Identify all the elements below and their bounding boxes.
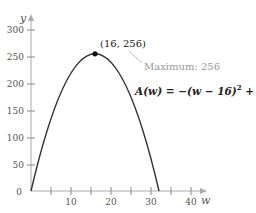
equation-constant: + 256 — [242, 85, 256, 97]
x-axis: 10 20 30 40 w — [31, 187, 211, 207]
y-tick-label: 200 — [7, 79, 24, 89]
y-axis: y 50 100 150 200 250 300 0 — [7, 12, 35, 197]
x-tick-label: 40 — [185, 197, 197, 207]
y-tick-label: 100 — [7, 133, 24, 143]
maximum-label: Maximum: 256 — [144, 61, 220, 72]
x-tick-label: 20 — [105, 197, 117, 207]
x-axis-label: w — [201, 194, 211, 207]
vertex-label: (16, 256) — [100, 38, 146, 49]
origin-label: 0 — [16, 187, 22, 197]
x-tick-label: 30 — [145, 197, 157, 207]
x-tick-label: 10 — [65, 197, 77, 207]
equation-main: A(w) = −(w − 16) — [134, 85, 237, 97]
y-axis-arrow-icon — [28, 14, 34, 21]
y-tick-label: 300 — [7, 25, 24, 35]
leader-line — [129, 51, 142, 63]
y-tick-label: 50 — [13, 160, 25, 170]
y-tick-label: 250 — [7, 52, 24, 62]
y-tick-label: 150 — [7, 106, 24, 116]
parabola-curve — [31, 54, 159, 191]
y-axis-label: y — [19, 12, 27, 25]
equation-label: A(w) = −(w − 16)2 + 256 — [134, 83, 256, 97]
chart: y 50 100 150 200 250 300 0 10 20 30 40 w… — [0, 0, 256, 213]
vertex-point — [92, 51, 97, 56]
